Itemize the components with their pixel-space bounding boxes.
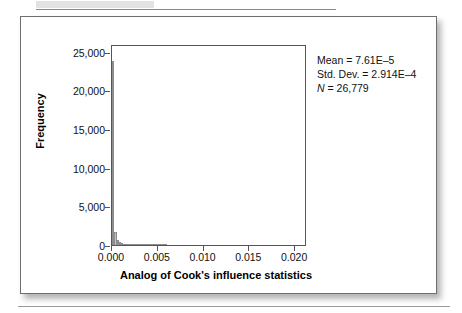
y-axis-title: Frequency bbox=[34, 71, 46, 171]
y-axis-labels: 05,00010,00015,00020,00025,000 bbox=[57, 45, 105, 246]
histogram-bar bbox=[112, 61, 114, 245]
figure-card: Frequency 05,00010,00015,00020,00025,000… bbox=[20, 16, 437, 294]
x-axis-tick-label: 0.010 bbox=[189, 251, 215, 263]
x-axis-tick-label: 0.000 bbox=[98, 251, 124, 263]
y-axis-tick-label: 25,000 bbox=[73, 47, 105, 59]
y-axis-tick-label: 5,000 bbox=[79, 201, 105, 213]
stat-mean: Mean = 7.61E–5 bbox=[317, 53, 416, 67]
statistics-annotation: Mean = 7.61E–5 Std. Dev. = 2.914E–4 N = … bbox=[317, 53, 416, 95]
y-axis-tick-label: 20,000 bbox=[73, 85, 105, 97]
stat-n-value: = 26,779 bbox=[325, 82, 369, 94]
y-axis-tick-label: 15,000 bbox=[73, 124, 105, 136]
x-axis-tick-label: 0.020 bbox=[281, 251, 307, 263]
x-axis-tick-label: 0.015 bbox=[235, 251, 261, 263]
y-axis-tick bbox=[105, 246, 110, 247]
header-rule bbox=[36, 9, 336, 10]
stat-stddev: Std. Dev. = 2.914E–4 bbox=[317, 67, 416, 81]
header-band bbox=[36, 1, 154, 8]
x-axis-labels: 0.0000.0050.0100.0150.020 bbox=[71, 251, 351, 267]
histogram-bar bbox=[165, 244, 167, 245]
plot-area bbox=[111, 45, 306, 246]
x-axis-tick-label: 0.005 bbox=[144, 251, 170, 263]
y-axis-tick bbox=[105, 53, 110, 54]
y-axis-tick bbox=[105, 91, 110, 92]
footer-rule bbox=[18, 306, 450, 307]
y-axis-tick bbox=[105, 207, 110, 208]
y-axis-tick-label: 10,000 bbox=[73, 163, 105, 175]
histogram-chart: Frequency 05,00010,00015,00020,00025,000… bbox=[21, 17, 438, 295]
stat-n-symbol: N bbox=[317, 82, 325, 94]
stat-n: N = 26,779 bbox=[317, 81, 416, 95]
y-axis-tick bbox=[105, 130, 110, 131]
x-axis-title: Analog of Cook's influence statistics bbox=[81, 269, 351, 281]
y-axis-tick bbox=[105, 169, 110, 170]
